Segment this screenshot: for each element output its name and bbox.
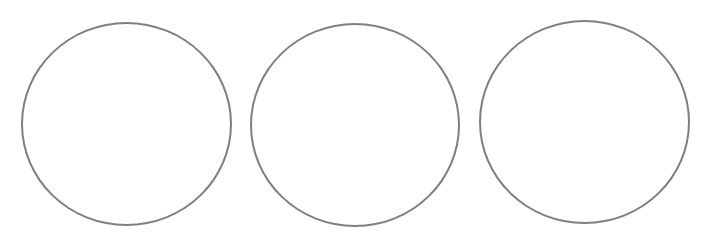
- circle-shape-2: [250, 23, 460, 227]
- circle-shape-1: [21, 22, 232, 226]
- circle-shape-3: [479, 20, 690, 224]
- drawing-canvas: [0, 0, 703, 245]
